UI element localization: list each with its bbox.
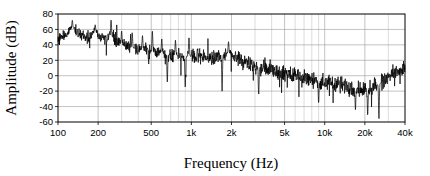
svg-text:5k: 5k <box>280 127 290 138</box>
svg-text:80: 80 <box>42 8 53 19</box>
svg-text:200: 200 <box>90 127 106 138</box>
spectrum-figure: 1002005001k2k5k10k20k40k -60-40-20020406… <box>0 0 430 176</box>
svg-text:-40: -40 <box>39 101 53 112</box>
svg-text:40: 40 <box>42 39 53 50</box>
svg-text:10k: 10k <box>317 127 333 138</box>
svg-text:0: 0 <box>48 70 53 81</box>
x-axis-tick-labels: 1002005001k2k5k10k20k40k <box>50 127 413 138</box>
svg-text:60: 60 <box>42 24 53 35</box>
svg-text:-20: -20 <box>39 85 53 96</box>
svg-text:40k: 40k <box>397 127 413 138</box>
svg-text:500: 500 <box>143 127 159 138</box>
svg-text:-60: -60 <box>39 116 53 127</box>
y-axis-tick-labels: -60-40-20020406080 <box>39 8 53 127</box>
chart-canvas: 1002005001k2k5k10k20k40k -60-40-20020406… <box>0 0 430 176</box>
x-axis-title: Frequency (Hz) <box>184 155 279 172</box>
svg-text:20k: 20k <box>357 127 373 138</box>
svg-text:1k: 1k <box>186 127 196 138</box>
svg-text:20: 20 <box>42 55 53 66</box>
y-axis-title: Amplitude (dB) <box>3 20 20 115</box>
svg-text:2k: 2k <box>226 127 236 138</box>
svg-text:100: 100 <box>50 127 66 138</box>
